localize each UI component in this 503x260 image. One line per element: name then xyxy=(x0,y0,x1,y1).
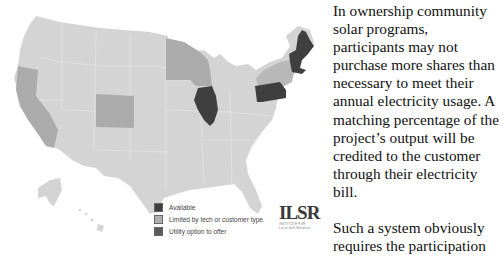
legend-swatch-limited xyxy=(154,215,163,224)
state-hawaii xyxy=(79,209,104,232)
paragraph-ownership: In ownership community solar programs, p… xyxy=(333,2,503,201)
text-line: project’s output will be xyxy=(333,129,503,147)
state-colorado xyxy=(96,94,134,128)
us-map-figure: Available Limited by tech or customer ty… xyxy=(0,0,330,260)
text-line: In ownership community xyxy=(333,2,503,20)
map-legend: Available Limited by tech or customer ty… xyxy=(154,201,263,237)
state-alaska xyxy=(38,178,62,206)
legend-label: Limited by tech or customer type xyxy=(169,216,263,223)
text-line: purchase more shares than xyxy=(333,56,503,74)
text-line: participants may not xyxy=(333,38,503,56)
legend-item-utility-option: Utility option to offer xyxy=(154,225,263,237)
legend-label: Available xyxy=(169,204,195,211)
text-line: matching percentage of the xyxy=(333,111,503,129)
legend-label: Utility option to offer xyxy=(169,228,226,235)
state-minnesota-wisconsin xyxy=(166,38,212,86)
legend-swatch-available xyxy=(154,203,163,212)
ilsr-logo: ILSR INSTITUTE FOR Local Self-Reliance xyxy=(279,204,325,230)
logo-subtitle-2: Local Self-Reliance xyxy=(279,226,325,230)
legend-swatch-utility-option xyxy=(154,227,163,236)
legend-item-available: Available xyxy=(154,201,263,213)
text-line: necessary to meet their xyxy=(333,74,503,92)
paragraph-participation: Such a system obviously requires the par… xyxy=(333,219,503,255)
text-line: Such a system obviously xyxy=(333,219,503,237)
text-line: bill. xyxy=(333,183,503,201)
legend-item-limited: Limited by tech or customer type xyxy=(154,213,263,225)
text-line: solar programs, xyxy=(333,20,503,38)
logo-wordmark: ILSR xyxy=(279,204,325,222)
text-line: annual electricity usage. A xyxy=(333,92,503,110)
article-text: In ownership community solar programs, p… xyxy=(333,2,503,255)
text-line: through their electricity xyxy=(333,165,503,183)
text-line: requires the participation xyxy=(333,237,503,255)
text-line: credited to the customer xyxy=(333,147,503,165)
